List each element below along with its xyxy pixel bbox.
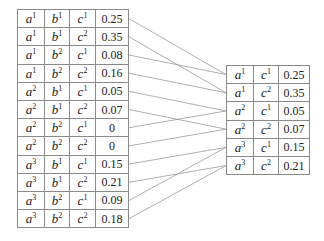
- c-cell: c2: [70, 173, 96, 191]
- a-cell-index: 2: [241, 122, 245, 131]
- a-cell: a2: [227, 102, 254, 120]
- c-cell: c2: [254, 156, 279, 174]
- table-row: a2b1c10.05: [18, 82, 129, 100]
- value-cell: 0.21: [96, 173, 129, 191]
- a-cell: a3: [18, 173, 45, 191]
- b-cell-index: 2: [58, 211, 62, 220]
- value-cell: 0.35: [96, 28, 129, 46]
- c-cell-index: 1: [83, 193, 87, 202]
- a-cell: a3: [18, 191, 45, 209]
- a-cell: a2: [18, 137, 45, 155]
- connector-line: [129, 19, 226, 75]
- table-row: a3b1c10.15: [18, 155, 129, 173]
- c-cell: c2: [70, 64, 96, 82]
- c-cell-index: 2: [83, 66, 87, 75]
- c-cell: c2: [70, 28, 96, 46]
- a-cell-index: 1: [32, 66, 36, 75]
- b-cell: b2: [45, 64, 70, 82]
- c-cell-index: 1: [267, 103, 271, 112]
- table-row: a3c10.15: [227, 138, 310, 156]
- a-cell: a1: [227, 84, 254, 102]
- value-cell: 0: [96, 137, 129, 155]
- a-cell: a1: [18, 64, 45, 82]
- value-cell: 0.05: [96, 82, 129, 100]
- b-cell: b2: [45, 210, 70, 228]
- table-row: a3c20.21: [227, 156, 310, 174]
- b-cell-index: 2: [58, 66, 62, 75]
- c-cell: c1: [70, 10, 96, 28]
- a-cell-index: 3: [32, 193, 36, 202]
- a-cell-index: 3: [241, 140, 245, 149]
- a-cell-index: 2: [32, 102, 36, 111]
- b-cell: b1: [45, 173, 70, 191]
- a-cell-index: 3: [32, 175, 36, 184]
- a-cell: a1: [18, 28, 45, 46]
- table-row: a2c20.07: [227, 120, 310, 138]
- connector-line: [129, 55, 226, 75]
- c-cell-index: 1: [267, 140, 271, 149]
- c-cell: c2: [70, 100, 96, 118]
- a-cell: a3: [227, 138, 254, 156]
- c-cell: c1: [70, 155, 96, 173]
- c-cell-index: 1: [267, 67, 271, 76]
- c-cell: c2: [70, 210, 96, 228]
- a-cell-index: 3: [241, 158, 245, 167]
- a-cell-index: 2: [32, 84, 36, 93]
- value-cell: 0: [96, 119, 129, 137]
- value-cell: 0.16: [96, 64, 129, 82]
- value-cell: 0.08: [96, 46, 129, 64]
- value-cell: 0.25: [96, 10, 129, 28]
- value-cell: 0.35: [279, 84, 310, 102]
- table-row: a1c10.25: [227, 66, 310, 84]
- b-cell: b1: [45, 155, 70, 173]
- left-factor-table: a1b1c10.25a1b1c20.35a1b2c10.08a1b2c20.16…: [17, 9, 129, 228]
- c-cell: c1: [70, 119, 96, 137]
- a-cell-index: 2: [32, 138, 36, 147]
- a-cell-index: 1: [32, 29, 36, 38]
- a-cell: a3: [227, 156, 254, 174]
- c-cell: c1: [254, 102, 279, 120]
- c-cell-index: 1: [83, 47, 87, 56]
- value-cell: 0.05: [279, 102, 310, 120]
- a-cell: a2: [18, 100, 45, 118]
- table-row: a2b1c20.07: [18, 100, 129, 118]
- table-row: a2b2c10: [18, 119, 129, 137]
- b-cell: b2: [45, 46, 70, 64]
- a-cell: a1: [18, 46, 45, 64]
- c-cell-index: 2: [83, 29, 87, 38]
- a-cell-index: 2: [32, 120, 36, 129]
- c-cell-index: 2: [83, 175, 87, 184]
- table-row: a3b2c20.18: [18, 210, 129, 228]
- b-cell: b1: [45, 82, 70, 100]
- c-cell-index: 1: [83, 11, 87, 20]
- right-factor-table: a1c10.25a1c20.35a2c10.05a2c20.07a3c10.15…: [226, 65, 310, 175]
- value-cell: 0.15: [279, 138, 310, 156]
- connector-line: [129, 129, 226, 146]
- a-cell-index: 1: [32, 47, 36, 56]
- c-cell-index: 2: [83, 211, 87, 220]
- table-row: a1b2c10.08: [18, 46, 129, 64]
- c-cell-index: 2: [267, 158, 271, 167]
- value-cell: 0.21: [279, 156, 310, 174]
- c-cell-index: 2: [267, 85, 271, 94]
- table-row: a3b1c20.21: [18, 173, 129, 191]
- value-cell: 0.07: [96, 100, 129, 118]
- c-cell-index: 2: [83, 138, 87, 147]
- b-cell-index: 1: [58, 175, 62, 184]
- a-cell: a3: [18, 210, 45, 228]
- table-row: a3b2c10.09: [18, 191, 129, 209]
- connector-line: [129, 91, 226, 111]
- c-cell-index: 1: [83, 84, 87, 93]
- connector-line: [129, 73, 226, 93]
- b-cell-index: 2: [58, 138, 62, 147]
- c-cell-index: 1: [83, 120, 87, 129]
- a-cell: a3: [18, 155, 45, 173]
- c-cell: c1: [254, 138, 279, 156]
- c-cell-index: 1: [83, 157, 87, 166]
- table-row: a2b2c20: [18, 137, 129, 155]
- a-cell: a2: [18, 82, 45, 100]
- b-cell: b1: [45, 100, 70, 118]
- b-cell-index: 1: [58, 157, 62, 166]
- a-cell-index: 1: [241, 85, 245, 94]
- a-cell-index: 3: [32, 211, 36, 220]
